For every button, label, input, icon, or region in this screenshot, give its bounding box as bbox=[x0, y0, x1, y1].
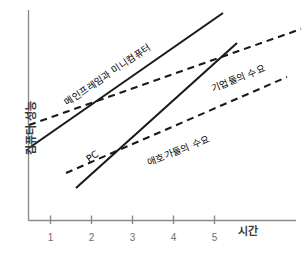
x-axis-title: 시간 bbox=[238, 222, 258, 238]
chart-figure: 1 2 3 4 5 컴퓨터 성능 시간 메인프레임과 미니컴퓨터 PC 기업들의… bbox=[0, 0, 308, 253]
x-tick-label-4: 4 bbox=[171, 232, 177, 243]
x-tick-label-2: 2 bbox=[89, 232, 95, 243]
y-axis-title: 컴퓨터 성능 bbox=[22, 101, 38, 155]
chart-plot-area: 1 2 3 4 5 bbox=[0, 0, 308, 253]
series-line-corporate-demand bbox=[29, 29, 301, 125]
x-tick-label-3: 3 bbox=[130, 232, 136, 243]
x-tick-label-5: 5 bbox=[212, 232, 218, 243]
series-line-hobbyist-demand bbox=[66, 77, 287, 173]
x-tick-label-1: 1 bbox=[48, 232, 54, 243]
